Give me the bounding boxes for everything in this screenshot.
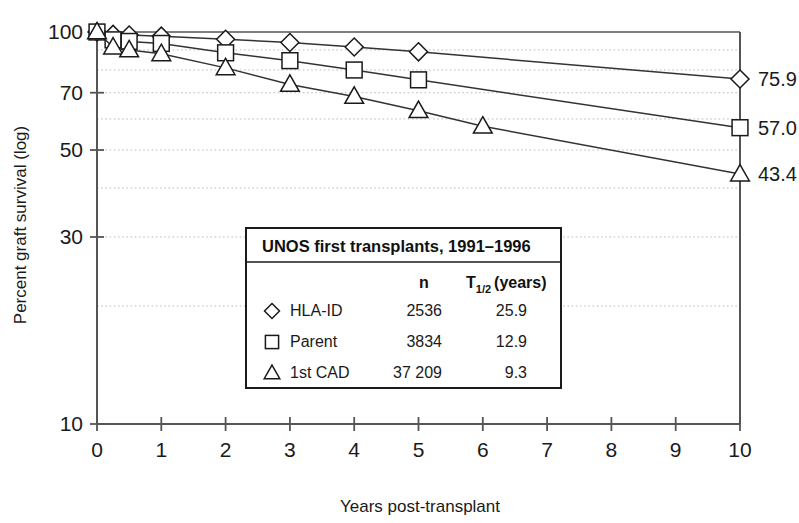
square-marker (265, 335, 278, 348)
x-tick-label: 2 (220, 438, 232, 461)
legend-col-n: n (419, 274, 429, 291)
square-marker (282, 53, 298, 69)
legend-item-label: 1st CAD (290, 364, 350, 381)
diamond-marker (731, 70, 749, 88)
legend-item-thalf: 9.3 (505, 364, 527, 381)
legend-item-n: 2536 (406, 302, 442, 319)
y-axis-ticks: 10070503010 (48, 20, 104, 435)
diamond-marker (410, 43, 428, 61)
x-tick-label: 6 (477, 438, 489, 461)
square-marker (346, 62, 362, 78)
x-tick-label: 10 (728, 438, 751, 461)
endpoint-label: 43.4 (758, 163, 797, 185)
y-axis-title: Percent graft survival (log) (11, 126, 30, 324)
legend: UNOS first transplants, 1991–1996 n T1/2… (246, 228, 561, 388)
square-marker (411, 72, 427, 88)
legend-item-n: 37 209 (393, 364, 442, 381)
diamond-marker (345, 38, 363, 56)
legend-item-thalf: 25.9 (496, 302, 527, 319)
legend-title: UNOS first transplants, 1991–1996 (262, 237, 531, 255)
legend-item-n: 3834 (406, 333, 442, 350)
y-tick-label: 50 (60, 138, 83, 161)
y-tick-label: 10 (60, 412, 83, 435)
y-tick-label: 70 (60, 81, 83, 104)
diamond-marker (281, 34, 299, 52)
endpoint-label: 75.9 (758, 68, 797, 90)
endpoint-labels: 75.957.043.4 (758, 68, 797, 185)
legend-item-thalf: 12.9 (496, 333, 527, 350)
series-parent (89, 24, 748, 136)
graft-survival-chart: 10070503010 012345678910 75.957.043.4 Pe… (0, 0, 799, 523)
chart-svg: 10070503010 012345678910 75.957.043.4 Pe… (0, 0, 799, 523)
endpoint-label: 57.0 (758, 117, 797, 139)
x-tick-label: 0 (91, 438, 103, 461)
legend-item-label: Parent (290, 333, 338, 350)
x-tick-label: 5 (413, 438, 425, 461)
square-marker (732, 120, 748, 136)
x-tick-label: 3 (284, 438, 296, 461)
legend-t-main: T (466, 274, 476, 291)
y-tick-label: 30 (60, 225, 83, 248)
legend-item-label: HLA-ID (290, 302, 342, 319)
x-tick-label: 4 (348, 438, 360, 461)
x-axis-title: Years post-transplant (340, 497, 500, 516)
x-tick-label: 7 (541, 438, 553, 461)
x-tick-label: 8 (606, 438, 618, 461)
legend-t-sub: 1/2 (476, 283, 491, 295)
data-series-layer (88, 22, 750, 181)
x-tick-label: 9 (670, 438, 682, 461)
legend-t-unit: (years) (494, 274, 546, 291)
x-tick-label: 1 (155, 438, 167, 461)
y-tick-label: 100 (48, 20, 83, 43)
